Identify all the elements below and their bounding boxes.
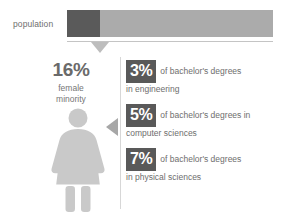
- bar-segment-remainder: [100, 10, 273, 37]
- callout-percent-value: 16%: [32, 60, 110, 80]
- female-minority-callout: 16% female minority: [32, 60, 110, 105]
- population-bar: [67, 10, 273, 37]
- stat-text-line2: computer sciences: [126, 128, 286, 139]
- stat-first-line: 3%of bachelor's degrees: [126, 60, 286, 83]
- triangle-left-icon: [106, 118, 118, 136]
- population-bar-region: population: [0, 0, 290, 48]
- column-divider: [120, 57, 121, 209]
- callout-caption-line2: minority: [56, 94, 86, 104]
- stat-first-line: 5%of bachelor's degrees in: [126, 104, 286, 127]
- stat-text-line2: in engineering: [126, 84, 286, 95]
- status-badge: 5%: [126, 104, 156, 127]
- stat-text-line1: of bachelor's degrees in: [160, 110, 250, 120]
- stat-text-line1: of bachelor's degrees: [160, 66, 241, 76]
- stat-text-line1: of bachelor's degrees: [160, 154, 241, 164]
- callout-caption: female minority: [32, 83, 110, 105]
- stat-first-line: 7%of bachelor's degrees: [126, 148, 286, 171]
- triangle-down-icon: [91, 42, 109, 53]
- degree-stats-list: 3%of bachelor's degrees in engineering 5…: [126, 60, 286, 192]
- list-item: 3%of bachelor's degrees in engineering: [126, 60, 286, 95]
- list-item: 5%of bachelor's degrees in computer scie…: [126, 104, 286, 139]
- stat-text-line2: in physical sciences: [126, 172, 286, 183]
- list-item: 7%of bachelor's degrees in physical scie…: [126, 148, 286, 183]
- bar-segment-female: [67, 10, 100, 37]
- callout-caption-line1: female: [58, 83, 84, 93]
- status-badge: 7%: [126, 148, 156, 171]
- status-badge: 3%: [126, 60, 156, 83]
- female-figure-icon: [47, 107, 109, 213]
- population-label: population: [13, 19, 53, 29]
